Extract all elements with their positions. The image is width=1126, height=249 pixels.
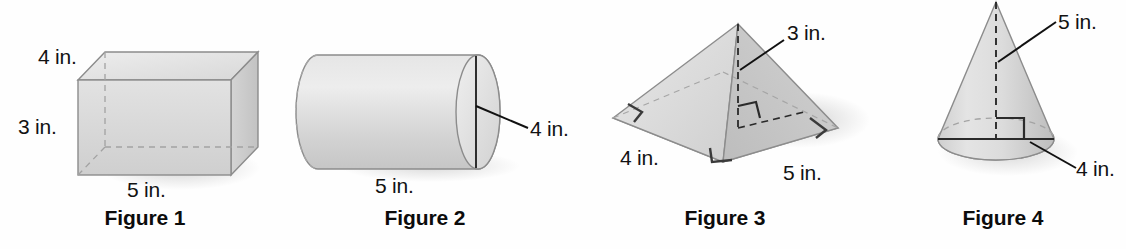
figures-stage: 4 in. 3 in. 5 in. Figure 1 — [0, 0, 1126, 249]
figure-3-height-label: 3 in. — [787, 22, 826, 43]
figure-3-group: 3 in. 4 in. 5 in. Figure 3 — [560, 0, 890, 249]
figure-1-caption: Figure 1 — [0, 207, 290, 228]
figure-1-group: 4 in. 3 in. 5 in. Figure 1 — [0, 0, 290, 249]
figure-4-group: 5 in. 4 in. Figure 4 — [880, 0, 1126, 249]
prism-front-face — [78, 80, 231, 175]
figure-1-height-label: 3 in. — [18, 116, 57, 137]
figure-4-height-label: 5 in. — [1058, 11, 1097, 32]
figure-4-caption: Figure 4 — [880, 207, 1126, 228]
figure-2-caption: Figure 2 — [280, 207, 570, 228]
figure-4-diameter-label: 4 in. — [1076, 158, 1115, 179]
figure-2-group: 4 in. 5 in. Figure 2 — [280, 0, 570, 249]
figure-3-base-width-label: 4 in. — [620, 147, 659, 168]
figure-3-base-length-label: 5 in. — [783, 162, 822, 183]
figure-2-length-label: 5 in. — [375, 175, 414, 196]
cylinder-right-face — [456, 55, 500, 169]
figure-3-caption: Figure 3 — [560, 207, 890, 228]
figure-1-width-label: 5 in. — [127, 179, 166, 200]
pyramid-left-face — [613, 24, 738, 162]
figure-1-depth-label: 4 in. — [38, 46, 77, 67]
